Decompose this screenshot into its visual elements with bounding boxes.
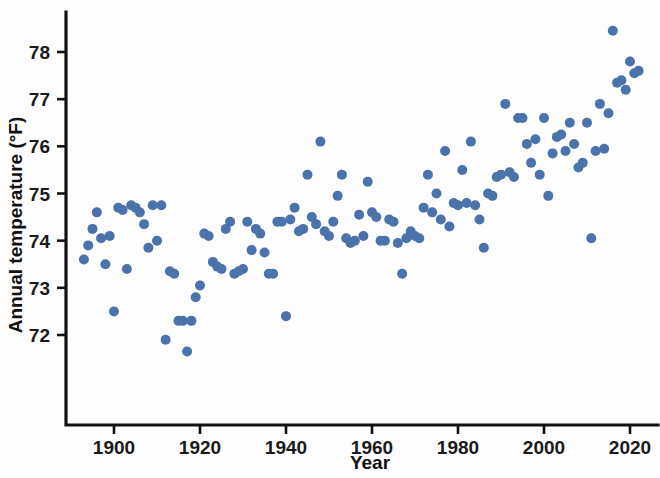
data-point (509, 172, 519, 182)
data-point (436, 214, 446, 224)
y-tick-label-77: 77 (29, 89, 50, 110)
data-point (242, 217, 252, 227)
data-point (608, 26, 618, 36)
data-point (427, 207, 437, 217)
data-point (539, 113, 549, 123)
data-point (88, 224, 98, 234)
data-point (556, 130, 566, 140)
data-point (161, 335, 171, 345)
data-point (247, 245, 257, 255)
data-point (475, 214, 485, 224)
data-point (260, 247, 270, 257)
data-point (522, 139, 532, 149)
data-point (535, 170, 545, 180)
data-point (255, 229, 265, 239)
y-tick-label-73: 73 (29, 278, 50, 299)
data-point (152, 236, 162, 246)
data-point (616, 75, 626, 85)
y-axis-title: Annual temperature (°F) (5, 117, 26, 334)
data-point (419, 203, 429, 213)
data-point (277, 217, 287, 227)
y-tick-label-74: 74 (29, 231, 51, 252)
data-point (354, 210, 364, 220)
data-point (363, 177, 373, 187)
data-point (423, 170, 433, 180)
data-point (100, 259, 110, 269)
y-tick-label-76: 76 (29, 136, 50, 157)
data-point (543, 191, 553, 201)
data-point (625, 56, 635, 66)
data-point (195, 280, 205, 290)
data-point (156, 200, 166, 210)
data-point (389, 217, 399, 227)
data-point (333, 191, 343, 201)
data-point (281, 311, 291, 321)
data-point (178, 316, 188, 326)
data-point (466, 137, 476, 147)
data-point (599, 144, 609, 154)
data-point (453, 200, 463, 210)
data-point (604, 108, 614, 118)
data-point (298, 224, 308, 234)
data-point (479, 243, 489, 253)
chart-canvas: 72737475767778 1900192019401960198020002… (0, 0, 660, 478)
data-point (393, 238, 403, 248)
data-point (139, 219, 149, 229)
data-point (96, 233, 106, 243)
data-point (337, 170, 347, 180)
data-point (470, 200, 480, 210)
data-point (440, 146, 450, 156)
x-tick-label-2000: 2000 (523, 437, 565, 458)
data-point (578, 158, 588, 168)
data-point (204, 231, 214, 241)
data-point (83, 240, 93, 250)
x-axis-title: Year (350, 452, 391, 473)
y-axis-tick-labels: 72737475767778 (29, 42, 51, 346)
data-point (487, 191, 497, 201)
data-point (358, 231, 368, 241)
y-tick-label-78: 78 (29, 42, 50, 63)
data-point (328, 217, 338, 227)
data-point (324, 231, 334, 241)
data-point (290, 203, 300, 213)
data-point (186, 316, 196, 326)
data-point (79, 255, 89, 265)
data-point (500, 99, 510, 109)
data-point (122, 264, 132, 274)
data-point (268, 269, 278, 279)
data-point (526, 158, 536, 168)
data-point (135, 207, 145, 217)
data-point (380, 236, 390, 246)
data-point (457, 165, 467, 175)
data-point (569, 139, 579, 149)
x-tick-label-1920: 1920 (179, 437, 221, 458)
y-tick-label-72: 72 (29, 325, 50, 346)
x-tick-label-1900: 1900 (93, 437, 135, 458)
data-point (148, 200, 158, 210)
data-point (444, 222, 454, 232)
data-point (432, 189, 442, 199)
data-point (561, 146, 571, 156)
data-point (582, 118, 592, 128)
data-point (518, 113, 528, 123)
data-point (143, 243, 153, 253)
x-tick-label-1940: 1940 (265, 437, 307, 458)
data-point (397, 269, 407, 279)
data-point (586, 233, 596, 243)
data-point (350, 236, 360, 246)
data-point (530, 134, 540, 144)
data-point (315, 137, 325, 147)
data-point (109, 306, 119, 316)
data-point (496, 170, 506, 180)
data-point (595, 99, 605, 109)
data-point (225, 217, 235, 227)
data-point (217, 264, 227, 274)
scatter-points-layer (79, 26, 644, 357)
data-point (285, 214, 295, 224)
data-point (118, 205, 128, 215)
data-point (548, 148, 558, 158)
x-tick-label-1980: 1980 (437, 437, 479, 458)
scatter-chart-figure: 72737475767778 1900192019401960198020002… (0, 0, 660, 478)
data-point (565, 118, 575, 128)
y-tick-label-75: 75 (29, 184, 51, 205)
